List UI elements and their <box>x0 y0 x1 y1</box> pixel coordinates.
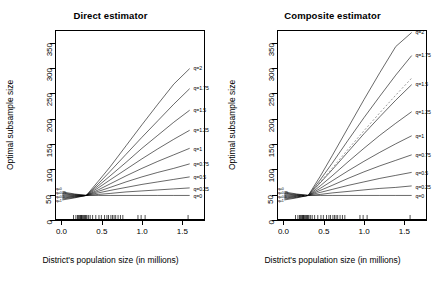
y-tick-label: 200 <box>45 119 54 132</box>
x-tick <box>102 220 103 225</box>
x-tick-label: 0.0 <box>56 227 67 236</box>
curve-end-label: q=1 <box>415 133 424 139</box>
x-tick-label: 1.0 <box>137 227 148 236</box>
x-tick <box>182 220 183 225</box>
y-axis-title: Optimal subsample size <box>4 30 16 220</box>
curve-q-2 <box>284 33 411 200</box>
y-tick-label: 50 <box>45 195 54 204</box>
y-tick-label: 300 <box>45 68 54 81</box>
curve-dashed-reference <box>284 78 411 197</box>
x-axis: 0.00.51.01.5 <box>277 220 427 242</box>
curve-q-0-5 <box>62 177 189 196</box>
x-tick-label: 0.5 <box>318 227 329 236</box>
y-tick-label: 150 <box>45 144 54 157</box>
panel-composite-estimator: Composite estimator Optimal subsample si… <box>222 0 443 286</box>
y-tick-label: 200 <box>267 119 276 132</box>
x-tick-label: 0.0 <box>278 227 289 236</box>
y-tick-label: 150 <box>267 144 276 157</box>
origin-stack-label: q=1 <box>278 199 284 203</box>
curve-end-label: q=1.75 <box>193 85 208 91</box>
y-tick-label: 250 <box>267 93 276 106</box>
y-axis: 050100150200250300350 <box>40 30 55 220</box>
curve-q-1-25 <box>284 112 411 197</box>
curve-end-label: q=1.25 <box>415 109 430 115</box>
curve-end-label: q=1 <box>193 146 202 152</box>
y-tick-label: 100 <box>45 169 54 182</box>
curve-end-label: q=1.75 <box>415 52 430 58</box>
curve-end-label: q=0 <box>415 193 424 199</box>
curve-end-label: q=0 <box>193 193 202 199</box>
curve-q-0-25 <box>62 188 189 196</box>
x-axis-title: District's population size (in millions) <box>222 255 443 265</box>
y-tick-label: 0 <box>45 220 54 224</box>
y-axis-title: Optimal subsample size <box>226 30 238 220</box>
x-tick-label: 0.5 <box>96 227 107 236</box>
panel-title: Composite estimator <box>222 10 443 21</box>
plot-area <box>277 30 427 220</box>
curve-q-0-25 <box>284 186 411 196</box>
panel-direct-estimator: Direct estimator Optimal subsample size … <box>0 0 221 286</box>
x-tick-label: 1.0 <box>359 227 370 236</box>
curve-end-label: q=1.25 <box>193 127 208 133</box>
curve-q-0-5 <box>284 172 411 195</box>
curve-end-label: q=0.75 <box>193 161 208 167</box>
curve-end-label: q=2 <box>193 65 202 71</box>
curve-q-0-75 <box>284 155 411 196</box>
y-axis-title-text: Optimal subsample size <box>227 80 237 170</box>
y-tick-label: 50 <box>267 195 276 204</box>
y-tick-label: 0 <box>267 220 276 224</box>
curve-q-1 <box>62 148 189 196</box>
curve-q-2 <box>62 69 189 200</box>
x-axis-title: District's population size (in millions) <box>0 255 221 265</box>
y-axis: 050100150200250300350 <box>262 30 277 220</box>
curve-q-1-25 <box>62 130 189 197</box>
x-tick-label: 1.5 <box>399 227 410 236</box>
x-axis: 0.00.51.01.5 <box>55 220 205 242</box>
figure-two-panel-chart: Direct estimator Optimal subsample size … <box>0 0 443 286</box>
curve-end-label: q=0.5 <box>415 170 428 176</box>
curve-q-1 <box>284 136 411 196</box>
y-tick-label: 100 <box>267 169 276 182</box>
origin-stack-label: q=1 <box>56 199 62 203</box>
curve-end-label: q=1.5 <box>193 107 206 113</box>
curve-q-1-5 <box>284 85 411 198</box>
curve-q-1-75 <box>62 89 189 199</box>
y-tick-label: 250 <box>45 93 54 106</box>
x-tick <box>283 220 284 225</box>
y-tick-label: 350 <box>267 43 276 56</box>
x-tick <box>324 220 325 225</box>
y-tick-label: 300 <box>267 68 276 81</box>
x-tick <box>61 220 62 225</box>
plot-curves <box>278 31 426 219</box>
x-tick <box>404 220 405 225</box>
curve-end-label: q=2 <box>415 29 424 35</box>
plot-curves <box>56 31 204 219</box>
y-tick-label: 350 <box>45 43 54 56</box>
y-axis-title-text: Optimal subsample size <box>5 80 15 170</box>
curve-end-label: q=1.5 <box>415 81 428 87</box>
curve-end-label: q=0.5 <box>193 174 206 180</box>
x-tick-label: 1.5 <box>177 227 188 236</box>
plot-area <box>55 30 205 220</box>
curve-end-label: q=0.25 <box>193 186 208 192</box>
x-tick <box>142 220 143 225</box>
curve-end-label: q=0.25 <box>415 184 430 190</box>
curve-end-label: q=0.75 <box>415 152 430 158</box>
panel-title: Direct estimator <box>0 10 221 21</box>
x-tick <box>364 220 365 225</box>
